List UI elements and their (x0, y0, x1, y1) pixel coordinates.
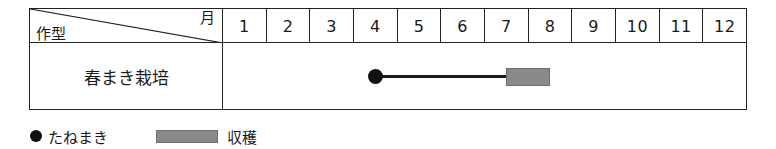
axis-corner-cell: 月 作型 (30, 9, 223, 43)
month-header-cell: 8 (529, 9, 573, 43)
schedule-timeline (223, 43, 746, 109)
month-header-cell: 11 (660, 9, 704, 43)
growing-period-line (376, 75, 507, 78)
sowing-marker-icon (368, 69, 383, 84)
month-header-cell: 5 (398, 9, 442, 43)
legend-item-harvest: 収穫 (156, 126, 257, 147)
harvest-period-bar (506, 68, 550, 86)
month-header-cells: 1 2 3 4 5 6 7 8 9 10 11 12 (223, 9, 746, 43)
legend-item-sowing-label: たねまき (48, 126, 108, 147)
month-header-cell: 4 (354, 9, 398, 43)
legend-item-sowing: たねまき (30, 126, 108, 147)
month-header-cell: 3 (310, 9, 354, 43)
legend-item-harvest-label: 収穫 (227, 126, 257, 147)
table-header-row: 月 作型 1 2 3 4 5 6 7 8 9 10 11 12 (30, 9, 746, 43)
legend: たねまき 収穫 (30, 126, 257, 146)
month-header-cell: 10 (616, 9, 660, 43)
month-header-cell: 2 (267, 9, 311, 43)
month-header-cell: 12 (703, 9, 746, 43)
table-row: 春まき栽培 (30, 43, 746, 109)
crop-type-label: 春まき栽培 (30, 43, 223, 109)
filled-circle-marker-icon (30, 130, 42, 142)
month-header-cell: 7 (485, 9, 529, 43)
gray-bar-swatch-icon (156, 130, 218, 143)
crop-schedule-table: 月 作型 1 2 3 4 5 6 7 8 9 10 11 12 春まき栽培 (29, 8, 747, 110)
month-header-cell: 6 (441, 9, 485, 43)
row-axis-label: 作型 (36, 26, 66, 43)
column-axis-label: 月 (200, 10, 215, 27)
month-header-cell: 9 (572, 9, 616, 43)
month-header-cell: 1 (223, 9, 267, 43)
